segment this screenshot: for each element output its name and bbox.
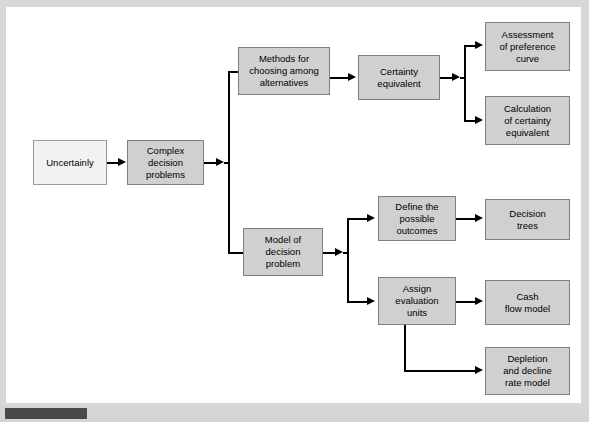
node-methods-for-choosing-label: Methods for choosing among alternatives bbox=[249, 53, 319, 89]
node-assessment-of-preference-curve[interactable]: Assessment of preference curve bbox=[485, 22, 570, 71]
node-methods-for-choosing[interactable]: Methods for choosing among alternatives bbox=[238, 47, 330, 95]
edge-split-vertical-main bbox=[228, 71, 230, 253]
node-define-possible-outcomes-label: Define the possible outcomes bbox=[395, 201, 438, 237]
arrowhead-complex-to-junction bbox=[216, 158, 224, 166]
arrowhead-to-decision-trees bbox=[475, 214, 483, 222]
node-complex-decision-problems-label: Complex decision problems bbox=[146, 145, 185, 181]
arrowhead-model-to-junction bbox=[335, 248, 343, 256]
node-assign-evaluation-units-label: Assign evaluation units bbox=[395, 283, 438, 319]
scanned-page: Uncertainly Complex decision problems Me… bbox=[0, 0, 589, 422]
node-define-possible-outcomes[interactable]: Define the possible outcomes bbox=[378, 196, 456, 241]
node-certainty-equivalent[interactable]: Certainty equivalent bbox=[358, 55, 440, 100]
arrowhead-to-assessment bbox=[475, 41, 483, 49]
node-decision-trees-label: Decision trees bbox=[509, 208, 545, 232]
node-cash-flow-model-label: Cash flow model bbox=[505, 291, 550, 315]
arrowhead-certainty-to-junction bbox=[452, 73, 460, 81]
edge-certainty-split-vertical bbox=[464, 45, 466, 121]
node-depletion-and-decline-rate-model[interactable]: Depletion and decline rate model bbox=[485, 347, 570, 395]
flowchart-canvas: Uncertainly Complex decision problems Me… bbox=[6, 7, 581, 403]
node-cash-flow-model[interactable]: Cash flow model bbox=[485, 280, 570, 325]
edge-split-to-define-outcomes bbox=[347, 218, 369, 220]
node-calculation-of-certainty-equivalent-label: Calculation of certainty equivalent bbox=[504, 103, 551, 139]
node-certainty-equivalent-label: Certainty equivalent bbox=[377, 66, 420, 90]
node-uncertainly[interactable]: Uncertainly bbox=[33, 140, 107, 185]
page-bottom-marker bbox=[5, 408, 87, 419]
node-calculation-of-certainty-equivalent[interactable]: Calculation of certainty equivalent bbox=[485, 96, 570, 145]
arrowhead-to-define-outcomes bbox=[367, 214, 375, 222]
edge-model-split-vertical bbox=[347, 218, 349, 302]
node-decision-trees[interactable]: Decision trees bbox=[485, 199, 570, 240]
edge-assign-units-to-cash-flow bbox=[456, 301, 477, 303]
node-model-of-decision-problem[interactable]: Model of decision problem bbox=[243, 228, 323, 276]
node-depletion-and-decline-rate-model-label: Depletion and decline rate model bbox=[503, 353, 552, 389]
arrowhead-methods-to-certainty bbox=[348, 73, 356, 81]
edge-assign-units-to-depletion bbox=[404, 370, 477, 372]
node-complex-decision-problems[interactable]: Complex decision problems bbox=[127, 140, 204, 185]
edge-methods-to-certainty bbox=[330, 77, 350, 79]
node-model-of-decision-problem-label: Model of decision problem bbox=[265, 234, 301, 270]
arrowhead-uncertainly-to-complex bbox=[118, 158, 126, 166]
edge-assign-units-drop-vertical bbox=[404, 325, 406, 371]
node-assign-evaluation-units[interactable]: Assign evaluation units bbox=[378, 277, 456, 325]
edge-split-to-model bbox=[228, 252, 243, 254]
edge-split-to-assign-units bbox=[347, 301, 369, 303]
arrowhead-to-assign-units bbox=[367, 297, 375, 305]
arrowhead-to-cash-flow bbox=[475, 297, 483, 305]
edge-define-outcomes-to-decision-trees bbox=[456, 218, 477, 220]
arrowhead-to-depletion bbox=[475, 366, 483, 374]
arrowhead-to-calculation bbox=[475, 116, 483, 124]
node-assessment-of-preference-curve-label: Assessment of preference curve bbox=[500, 29, 556, 65]
node-uncertainly-label: Uncertainly bbox=[46, 157, 94, 169]
page-bottom-strip bbox=[0, 406, 589, 422]
edge-split-to-methods bbox=[228, 71, 238, 73]
